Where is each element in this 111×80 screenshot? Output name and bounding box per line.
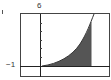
chart-plot: [0, 0, 111, 80]
shaded-area: [43, 22, 91, 66]
window-frame: [21, 14, 110, 77]
